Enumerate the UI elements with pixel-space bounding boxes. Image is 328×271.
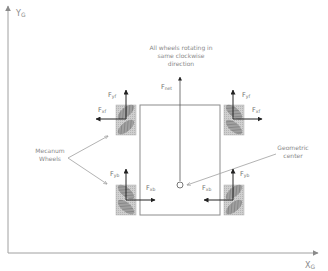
mecanum-force-diagram: YG XG All wheels rotating in same clockw… xyxy=(0,0,328,271)
rear-right-fx-label: Fxb xyxy=(202,184,211,192)
net-force-label: Fnet xyxy=(161,83,172,91)
rotation-annotation: All wheels rotating in same clockwise di… xyxy=(149,44,212,67)
svg-text:center: center xyxy=(283,152,303,159)
geometric-center-pointer xyxy=(187,154,276,185)
svg-text:direction: direction xyxy=(168,60,194,67)
front-left-fx-label: Fxf xyxy=(98,106,106,114)
svg-text:Wheels: Wheels xyxy=(39,155,61,162)
rear-left-fx-label: Fxb xyxy=(146,184,155,192)
rear-right-fy-label: Fyb xyxy=(240,170,249,178)
x-axis-label: XG xyxy=(305,261,315,270)
mecanum-wheels-label: Mecanum Wheels xyxy=(35,147,64,162)
y-axis-label: YG xyxy=(15,9,26,18)
geometric-center-marker xyxy=(177,182,183,188)
svg-text:All wheels rotating in: All wheels rotating in xyxy=(149,44,212,52)
svg-text:Mecanum: Mecanum xyxy=(35,147,64,154)
rear-left-fy-label: Fyb xyxy=(110,170,119,178)
front-right-fx-label: Fxf xyxy=(252,106,260,114)
front-left-fy-label: Fyf xyxy=(108,91,116,99)
mecanum-pointer-lines xyxy=(68,136,108,184)
svg-text:Geometric: Geometric xyxy=(277,144,308,151)
geometric-center-label: Geometric center xyxy=(277,144,308,159)
front-right-fy-label: Fyf xyxy=(242,91,250,99)
svg-text:same clockwise: same clockwise xyxy=(157,52,204,59)
